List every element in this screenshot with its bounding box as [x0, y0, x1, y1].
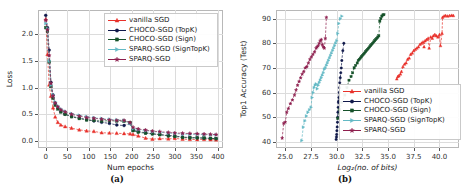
- data-point: [353, 67, 355, 69]
- data-point: [44, 14, 47, 17]
- legend-label: vanilla SGD: [364, 87, 404, 96]
- legend-item-vanilla-sgd[interactable]: vanilla SGD: [343, 87, 457, 97]
- data-point: [281, 136, 284, 139]
- data-point: [196, 137, 199, 140]
- data-point: [209, 137, 212, 140]
- legend-swatch: [343, 126, 361, 135]
- data-point: [123, 124, 126, 127]
- data-point: [293, 93, 296, 96]
- legend-marker-icon: [343, 126, 361, 135]
- legend-label: CHOCO-SGD (Sign): [364, 106, 431, 115]
- data-point: [343, 42, 345, 44]
- data-point: [351, 72, 353, 74]
- legend-swatch: [108, 55, 126, 64]
- legend-marker-icon: [108, 16, 126, 25]
- data-point: [44, 18, 48, 22]
- data-point: [339, 77, 341, 79]
- subplot-caption-a: (a): [110, 174, 124, 184]
- legend-swatch: [343, 116, 361, 125]
- legend-item-sparq-sgd[interactable]: SPARQ-SGD: [343, 125, 457, 135]
- legend-item-choco-sgd-topk-[interactable]: CHOCO-SGD (TopK): [108, 26, 214, 36]
- data-point: [379, 20, 381, 22]
- legend-marker-icon: [343, 106, 361, 115]
- legend-item-choco-sgd-sign-[interactable]: CHOCO-SGD (Sign): [343, 106, 457, 116]
- data-point: [335, 138, 337, 140]
- data-point: [307, 111, 310, 114]
- legend-marker-icon: [108, 55, 126, 64]
- data-point: [340, 67, 342, 69]
- legend-marker-icon: [343, 87, 361, 96]
- data-point: [296, 83, 299, 86]
- data-point: [342, 49, 344, 51]
- data-point: [167, 135, 170, 138]
- data-point: [289, 102, 292, 105]
- data-point: [56, 120, 59, 123]
- legend-a[interactable]: vanilla SGDCHOCO-SGD (TopK)CHOCO-SGD (Si…: [104, 13, 218, 67]
- legend-item-choco-sgd-sign-[interactable]: CHOCO-SGD (Sign): [108, 35, 214, 45]
- data-point: [341, 59, 343, 61]
- legend-swatch: [108, 26, 126, 35]
- data-point: [137, 134, 140, 137]
- data-point: [348, 79, 350, 81]
- series-vanilla-sgd: [395, 14, 454, 80]
- legend-marker-icon: [343, 97, 361, 106]
- legend-swatch: [343, 87, 361, 96]
- subplot-caption-b: (b): [338, 174, 352, 184]
- data-point: [313, 50, 316, 53]
- data-point: [383, 14, 385, 16]
- data-point: [189, 137, 192, 140]
- data-point: [294, 88, 297, 91]
- data-point: [325, 16, 328, 19]
- data-point: [355, 64, 357, 66]
- data-point: [324, 37, 327, 40]
- legend-label: CHOCO-SGD (TopK): [129, 26, 197, 35]
- data-point: [335, 136, 337, 138]
- data-point: [63, 125, 66, 128]
- data-point: [298, 80, 301, 83]
- data-point: [378, 35, 380, 37]
- data-point: [336, 130, 338, 132]
- data-point: [439, 44, 442, 47]
- legend-b[interactable]: vanilla SGDCHOCO-SGD (TopK)CHOCO-SGD (Si…: [339, 84, 461, 140]
- legend-item-sparq-sgd-signtopk-[interactable]: SPARQ-SGD (SignTopK): [343, 116, 457, 126]
- data-point: [299, 76, 302, 79]
- legend-item-sparq-sgd[interactable]: SPARQ-SGD: [108, 54, 214, 64]
- data-point: [173, 135, 176, 138]
- data-point: [181, 136, 184, 139]
- data-point: [115, 124, 118, 127]
- data-point: [339, 17, 342, 20]
- legend-label: SPARQ-SGD (SignTopK): [364, 116, 445, 125]
- figure-container: 0501001502002503003504000.00.51.01.52.0N…: [0, 0, 470, 196]
- data-point: [291, 98, 294, 101]
- data-point: [144, 136, 147, 139]
- legend-label: CHOCO-SGD (Sign): [129, 35, 196, 44]
- legend-label: SPARQ-SGD (SignTopK): [129, 45, 210, 54]
- data-point: [380, 18, 382, 20]
- legend-swatch: [108, 35, 126, 44]
- legend-marker-icon: [343, 116, 361, 125]
- data-point: [441, 32, 444, 35]
- data-point: [400, 70, 403, 73]
- data-point: [54, 115, 57, 118]
- data-point: [423, 45, 426, 48]
- data-point: [341, 15, 344, 18]
- legend-marker-icon: [108, 26, 126, 35]
- data-point: [215, 137, 218, 140]
- data-point: [405, 61, 408, 64]
- data-point: [108, 122, 111, 125]
- data-point: [335, 133, 337, 135]
- data-point: [428, 47, 431, 50]
- legend-swatch: [343, 106, 361, 115]
- legend-item-sparq-sgd-signtopk-[interactable]: SPARQ-SGD (SignTopK): [108, 45, 214, 55]
- data-point: [408, 57, 411, 60]
- legend-marker-icon: [108, 35, 126, 44]
- legend-label: vanilla SGD: [129, 16, 169, 25]
- legend-item-choco-sgd-topk-[interactable]: CHOCO-SGD (TopK): [343, 97, 457, 107]
- data-point: [350, 75, 352, 77]
- legend-item-vanilla-sgd[interactable]: vanilla SGD: [108, 16, 214, 26]
- data-point: [144, 132, 147, 135]
- legend-swatch: [108, 45, 126, 54]
- data-point: [316, 87, 319, 90]
- legend-swatch: [343, 97, 361, 106]
- data-point: [285, 111, 288, 114]
